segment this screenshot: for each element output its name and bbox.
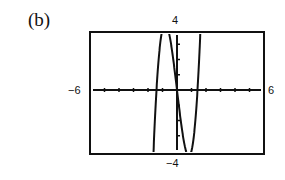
graph-window (0, 0, 285, 180)
